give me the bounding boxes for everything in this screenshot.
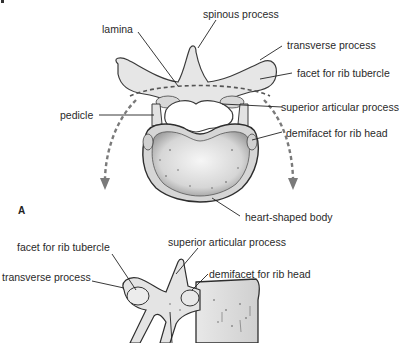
label-spinous-process: spinous process	[203, 8, 279, 20]
label-pedicle: pedicle	[60, 109, 93, 121]
label-b-facet-rib-tubercle: facet for rib tubercle	[17, 241, 110, 253]
label-demifacet-rib-head: demifacet for rib head	[286, 127, 388, 139]
label-heart-shaped-body: heart-shaped body	[245, 211, 333, 223]
vertebra-illustration	[0, 0, 399, 343]
label-lamina: lamina	[102, 23, 133, 35]
corner-mark	[1, 0, 4, 3]
label-facet-rib-tubercle: facet for rib tubercle	[297, 67, 390, 79]
label-b-transverse-process: transverse process	[2, 271, 91, 283]
label-b-superior-articular-process: superior articular process	[168, 236, 286, 248]
panel-a-vertebra	[116, 46, 276, 202]
label-transverse-process: transverse process	[287, 39, 376, 51]
vertebra-diagram: lamina spinous process transverse proces…	[0, 0, 399, 343]
panel-letter-a: A	[18, 205, 25, 216]
label-b-demifacet-rib-head: demifacet for rib head	[209, 268, 311, 280]
label-superior-articular-process: superior articular process	[281, 101, 399, 113]
